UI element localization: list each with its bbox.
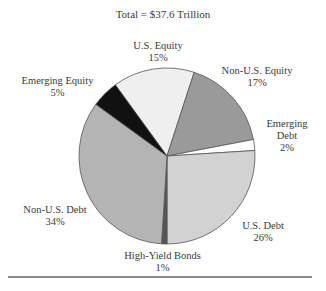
label-us-debt-name: U.S. Debt xyxy=(228,220,298,232)
label-high-yield-name: High-Yield Bonds xyxy=(110,250,215,262)
label-us-equity-name: U.S. Equity xyxy=(118,40,198,52)
label-emerging-debt-line2: Debt xyxy=(252,130,322,142)
label-us-debt-pct: 26% xyxy=(228,232,298,244)
label-emerging-debt-line1: Emerging xyxy=(252,118,322,130)
label-emerging-debt-pct: 2% xyxy=(252,142,322,154)
label-non-us-debt-name: Non-U.S. Debt xyxy=(15,204,95,216)
label-non-us-debt: Non-U.S. Debt 34% xyxy=(15,204,95,228)
label-us-equity: U.S. Equity 15% xyxy=(118,40,198,64)
label-emerging-equity: Emerging Equity 5% xyxy=(10,75,105,99)
label-high-yield-bonds: High-Yield Bonds 1% xyxy=(110,250,215,274)
label-us-debt: U.S. Debt 26% xyxy=(228,220,298,244)
bottom-rule xyxy=(8,276,312,278)
label-high-yield-pct: 1% xyxy=(110,262,215,274)
label-emerging-equity-name: Emerging Equity xyxy=(10,75,105,87)
label-non-us-equity-name: Non-U.S. Equity xyxy=(212,65,302,77)
label-non-us-debt-pct: 34% xyxy=(15,216,95,228)
label-us-equity-pct: 15% xyxy=(118,52,198,64)
label-non-us-equity-pct: 17% xyxy=(212,77,302,89)
label-non-us-equity: Non-U.S. Equity 17% xyxy=(212,65,302,89)
label-emerging-equity-pct: 5% xyxy=(10,87,105,99)
label-emerging-debt: Emerging Debt 2% xyxy=(252,118,322,154)
